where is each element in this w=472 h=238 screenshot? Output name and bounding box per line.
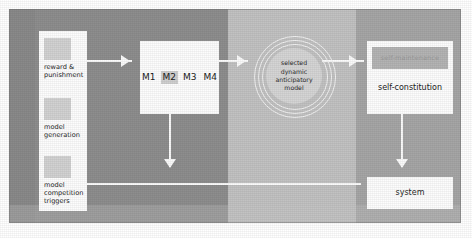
model-chip-m4[interactable]: M4 xyxy=(202,71,220,85)
connector-self-constitution-down xyxy=(401,105,403,167)
diagram-canvas: reward & punishment model generation mod… xyxy=(0,0,472,238)
system-label: system xyxy=(396,188,425,198)
arrowhead-models-down xyxy=(164,159,176,168)
selected-model-circles[interactable]: selected dynamic anticipatory model xyxy=(254,36,336,118)
stack-item-label: reward & punishment xyxy=(44,63,83,79)
stack-item-label: model generation xyxy=(44,123,80,139)
background-band-left xyxy=(9,9,35,223)
stack-item-reward-punishment[interactable]: reward & punishment xyxy=(39,33,87,91)
model-chip-m2-selected[interactable]: M2 xyxy=(161,71,179,85)
stack-item-label: model competition triggers xyxy=(44,181,83,205)
self-maintenance-faded-label: self-maintenance xyxy=(372,47,448,69)
diagram-panel: reward & punishment model generation mod… xyxy=(9,9,461,223)
arrowhead-circle-to-self-constitution xyxy=(349,55,358,67)
model-chip-m1[interactable]: M1 xyxy=(140,71,158,85)
stack-item-model-generation[interactable]: model generation xyxy=(39,93,87,149)
connector-models-down xyxy=(169,105,171,167)
arrowhead-reward-to-models xyxy=(121,55,130,67)
thumbnail-icon xyxy=(44,156,71,178)
connector-system-feedback xyxy=(79,183,361,185)
self-constitution-label: self-constitution xyxy=(372,69,448,108)
self-constitution-box[interactable]: self-maintenance self-constitution xyxy=(367,41,453,114)
system-box[interactable]: system xyxy=(367,177,453,209)
models-row: M1 M2 M3 M4 xyxy=(140,71,219,85)
left-input-column: reward & punishment model generation mod… xyxy=(39,31,87,211)
arrowhead-self-constitution-down xyxy=(396,159,408,168)
arrowhead-models-to-circle xyxy=(237,55,246,67)
selected-model-label: selected dynamic anticipatory model xyxy=(266,48,322,104)
stack-item-model-competition-triggers[interactable]: model competition triggers xyxy=(39,151,87,211)
thumbnail-icon xyxy=(44,38,71,60)
thumbnail-icon xyxy=(44,98,71,120)
models-box[interactable]: M1 M2 M3 M4 xyxy=(140,41,219,114)
model-chip-m3[interactable]: M3 xyxy=(181,71,199,85)
